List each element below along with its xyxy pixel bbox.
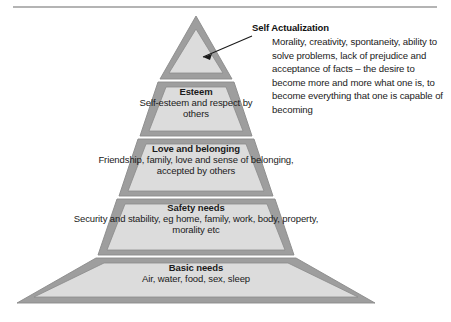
- tier-label-love-and-belonging: Love and belonging Friendship, family, l…: [98, 143, 294, 177]
- tier-title-esteem: Esteem: [128, 86, 264, 97]
- tier-description-safety-needs: Security and stability, eg home, family,…: [62, 213, 330, 235]
- tier-title-safety-needs: Safety needs: [62, 202, 330, 213]
- tier-label-esteem: Esteem Self-esteem and respect by others: [128, 86, 264, 120]
- callout-body: Morality, creativity, spontaneity, abili…: [252, 35, 444, 117]
- tier-description-basic-needs: Air, water, food, sex, sleep: [30, 273, 362, 284]
- callout-title: Self Actualization: [252, 22, 444, 33]
- tier-label-basic-needs: Basic needs Air, water, food, sex, sleep: [30, 262, 362, 284]
- tier-label-safety-needs: Safety needs Security and stability, eg …: [62, 202, 330, 236]
- tier-title-basic-needs: Basic needs: [30, 262, 362, 273]
- callout-self-actualization: Self Actualization Morality, creativity,…: [252, 22, 444, 117]
- tier-description-love-and-belonging: Friendship, family, love and sense of be…: [98, 154, 294, 176]
- diagram-canvas: .band { fill: #9e9e9e; stroke: #8a8a8a; …: [0, 0, 451, 322]
- tier-title-love-and-belonging: Love and belonging: [98, 143, 294, 154]
- pyramid-tier-self-actualization[interactable]: [160, 16, 232, 79]
- tier-description-esteem: Self-esteem and respect by others: [128, 97, 264, 119]
